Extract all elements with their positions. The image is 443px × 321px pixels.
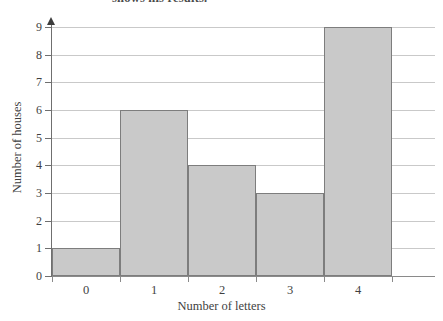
y-axis-arrow-icon — [47, 17, 55, 25]
y-tick-0 — [45, 276, 52, 277]
x-axis-line — [46, 276, 435, 277]
y-tick-7 — [45, 82, 52, 83]
y-axis-line — [51, 23, 52, 277]
x-tick-label-2: 2 — [207, 283, 237, 297]
y-tick-1 — [45, 248, 52, 249]
y-tick-9 — [45, 27, 52, 28]
y-tick-label-0: 0 — [14, 270, 42, 282]
y-tick-6 — [45, 110, 52, 111]
y-tick-label-8-wrap: 8 — [6, 49, 42, 61]
x-tick-edge-4 — [324, 276, 325, 282]
bar-category-0[interactable] — [52, 248, 120, 276]
y-tick-2 — [45, 221, 52, 222]
plot-area — [52, 27, 392, 276]
bar-chart-figure: 0 1 2 3 4 5 6 7 8 9 0 1 2 3 4 Number of … — [0, 0, 443, 321]
x-tick-label-4: 4 — [343, 283, 373, 297]
y-tick-label-0-wrap: 0 — [6, 270, 42, 282]
bar-category-1[interactable] — [120, 110, 188, 276]
y-tick-label-9-wrap: 9 — [6, 21, 42, 33]
x-axis-title: Number of letters — [0, 299, 443, 314]
y-tick-4 — [45, 165, 52, 166]
y-tick-label-2: 2 — [14, 215, 42, 227]
x-tick-edge-5 — [392, 276, 393, 282]
y-tick-5 — [45, 138, 52, 139]
y-tick-label-1-wrap: 1 — [6, 242, 42, 254]
x-tick-edge-1 — [120, 276, 121, 282]
x-tick-label-0: 0 — [71, 283, 101, 297]
y-tick-label-1: 1 — [14, 242, 42, 254]
y-axis-title: Number of houses — [10, 83, 25, 213]
x-tick-edge-2 — [188, 276, 189, 282]
bar-category-4[interactable] — [324, 27, 392, 276]
y-tick-3 — [45, 193, 52, 194]
bar-category-2[interactable] — [188, 165, 256, 276]
x-tick-label-3: 3 — [275, 283, 305, 297]
x-tick-edge-0 — [52, 276, 53, 282]
y-tick-label-8: 8 — [14, 49, 42, 61]
y-tick-label-9: 9 — [14, 21, 42, 33]
bar-category-3[interactable] — [256, 193, 324, 276]
y-tick-8 — [45, 55, 52, 56]
x-tick-label-1: 1 — [139, 283, 169, 297]
y-tick-label-2-wrap: 2 — [6, 215, 42, 227]
x-tick-edge-3 — [256, 276, 257, 282]
